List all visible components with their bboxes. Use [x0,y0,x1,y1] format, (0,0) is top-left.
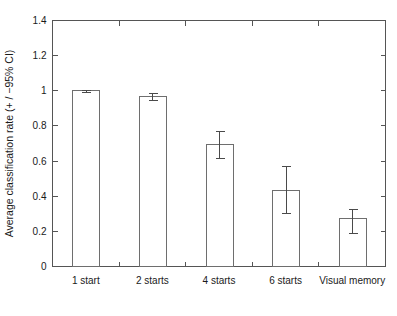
x-tick-label-4: Visual memory [319,275,385,286]
y-tick-label-2: 0.4 [33,191,47,202]
y-tick-label-6: 1.2 [33,50,47,61]
bar-group-1 [140,94,167,267]
x-tick-label-3: 6 starts [269,275,302,286]
y-tick-label-7: 1.4 [33,15,47,26]
bar-chart-canvas: 00.20.40.60.811.21.41 start2 starts4 sta… [0,0,397,316]
y-tick-label-0: 0 [41,261,47,272]
y-tick-label-4: 0.8 [33,120,47,131]
bar-group-0 [73,91,100,267]
bar-group-3 [273,167,300,267]
y-tick-label-1: 0.2 [33,226,47,237]
y-axis-title: Average classification rate (+ / −95% CI… [3,50,15,238]
chart-container: 00.20.40.60.811.21.41 start2 starts4 sta… [0,0,397,316]
x-tick-label-0: 1 start [72,275,100,286]
bar-0 [73,91,100,267]
bar-group-4 [340,210,367,267]
y-tick-label-3: 0.6 [33,156,47,167]
x-tick-label-1: 2 starts [136,275,169,286]
bar-group-2 [207,132,234,267]
bar-2 [207,144,234,266]
y-tick-label-5: 1 [41,85,47,96]
x-tick-label-2: 4 starts [203,275,236,286]
bar-1 [140,97,167,267]
